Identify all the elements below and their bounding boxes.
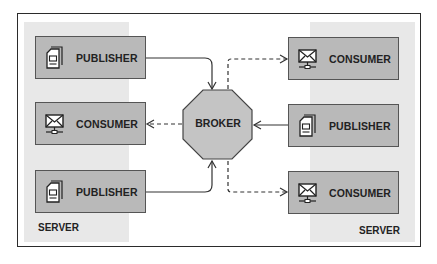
document-stack-icon bbox=[44, 179, 66, 205]
left-publisher-top[interactable]: PUBLISHER bbox=[35, 36, 146, 79]
node-label: PUBLISHER bbox=[76, 52, 138, 64]
envelope-network-icon bbox=[297, 180, 319, 206]
left-server-label: SERVER bbox=[38, 222, 79, 233]
right-server-label: SERVER bbox=[359, 225, 400, 236]
left-consumer[interactable]: CONSUMER bbox=[35, 102, 146, 145]
left-publisher-bottom[interactable]: PUBLISHER bbox=[35, 170, 146, 213]
envelope-network-icon bbox=[44, 111, 66, 137]
node-label: PUBLISHER bbox=[329, 120, 391, 132]
node-label: PUBLISHER bbox=[76, 186, 138, 198]
document-stack-icon bbox=[44, 45, 66, 71]
right-consumer-top[interactable]: CONSUMER bbox=[288, 37, 399, 80]
right-publisher[interactable]: PUBLISHER bbox=[288, 104, 399, 147]
right-consumer-bottom[interactable]: CONSUMER bbox=[288, 171, 399, 214]
node-label: CONSUMER bbox=[76, 118, 138, 130]
document-stack-icon bbox=[297, 113, 319, 139]
node-label: CONSUMER bbox=[329, 187, 391, 199]
node-label: CONSUMER bbox=[329, 53, 391, 65]
envelope-network-icon bbox=[297, 46, 319, 72]
broker-label: BROKER bbox=[183, 117, 253, 129]
